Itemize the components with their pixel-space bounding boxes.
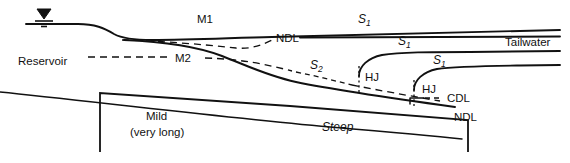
s1-profile-after-first-jump [359, 51, 560, 76]
cdl-label: CDL [447, 92, 471, 104]
mild-note-label: (very long) [130, 126, 184, 138]
s2-letter: S [310, 58, 318, 72]
m2-guide-dashed-right [205, 58, 292, 71]
s2-subscript: 2 [317, 64, 323, 74]
s1-middle-subscript: 1 [406, 40, 411, 50]
s1-lower-letter: S [433, 53, 441, 67]
s1-upper-subscript: 1 [366, 18, 371, 28]
reservoir-label: Reservoir [18, 55, 67, 67]
tailwater-label: Tailwater [505, 36, 551, 48]
hj-first-label: HJ [365, 71, 379, 83]
s1-middle-letter: S [398, 34, 406, 48]
mild-label: Mild [146, 110, 167, 122]
s1-upper-label: S 1 [358, 12, 371, 28]
s1-lower-subscript: 1 [441, 59, 446, 69]
water-surface-triangle-icon [37, 9, 51, 19]
s2-label: S 2 [310, 58, 323, 74]
m1-label: M1 [197, 13, 213, 25]
ndl-upper-label: NDL [276, 32, 300, 44]
s1-upper-letter: S [358, 12, 366, 26]
m2-drawdown-profile [124, 40, 455, 107]
steep-label: Steep [322, 120, 354, 134]
s1-lower-label: S 1 [433, 53, 446, 69]
ndl-lower-label: NDL [454, 111, 478, 123]
profile-figure-svg: Reservoir M1 M2 NDL Tailwater S 1 S 1 S … [0, 0, 570, 163]
m2-label: M2 [175, 52, 191, 64]
water-surface-profile-diagram: Reservoir M1 M2 NDL Tailwater S 1 S 1 S … [0, 0, 570, 163]
hj-second-label: HJ [422, 83, 436, 95]
